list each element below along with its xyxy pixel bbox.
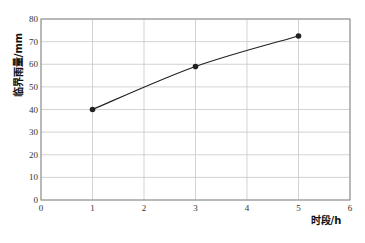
- y-tick-label: 40: [29, 105, 39, 115]
- y-tick-label: 60: [29, 59, 39, 69]
- x-tick-label: 1: [90, 203, 95, 213]
- data-point: [90, 107, 96, 113]
- x-tick-label: 0: [39, 203, 44, 213]
- y-tick-label: 20: [29, 150, 39, 160]
- grid-lines: [41, 19, 350, 200]
- y-tick-label: 50: [29, 82, 39, 92]
- data-point: [193, 64, 199, 70]
- y-tick-label: 0: [34, 195, 39, 205]
- data-point: [296, 33, 302, 39]
- x-tick-label: 5: [296, 203, 301, 213]
- x-tick-label: 6: [348, 203, 353, 213]
- y-tick-label: 70: [29, 37, 39, 47]
- x-tick-label: 3: [193, 203, 198, 213]
- line-chart: 010203040506070800123456 临界雨量/mm 时段/h: [0, 0, 365, 243]
- x-axis-label: 时段/h: [311, 214, 342, 226]
- x-tick-label: 2: [142, 203, 147, 213]
- x-tick-label: 4: [245, 203, 250, 213]
- y-tick-label: 10: [29, 172, 39, 182]
- y-tick-label: 30: [29, 127, 39, 137]
- y-tick-label: 80: [29, 14, 39, 24]
- y-axis-label: 临界雨量/mm: [12, 33, 24, 98]
- tick-labels: 010203040506070800123456: [29, 14, 353, 213]
